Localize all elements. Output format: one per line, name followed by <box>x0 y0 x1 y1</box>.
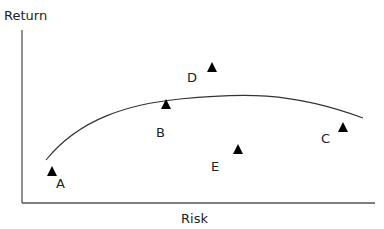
marker-e-icon <box>233 144 243 154</box>
point-label-c: C <box>321 131 330 146</box>
point-label-d: D <box>187 70 197 85</box>
point-label-b: B <box>156 125 165 140</box>
point-label-a: A <box>56 176 65 191</box>
efficient-frontier-curve <box>46 95 363 160</box>
marker-c-icon <box>338 122 348 132</box>
point-label-e: E <box>211 159 219 174</box>
y-axis-title: Return <box>4 8 47 23</box>
marker-a-icon <box>47 166 57 176</box>
x-axis-title: Risk <box>181 211 208 226</box>
marker-d-icon <box>207 62 217 72</box>
risk-return-chart <box>0 0 384 229</box>
